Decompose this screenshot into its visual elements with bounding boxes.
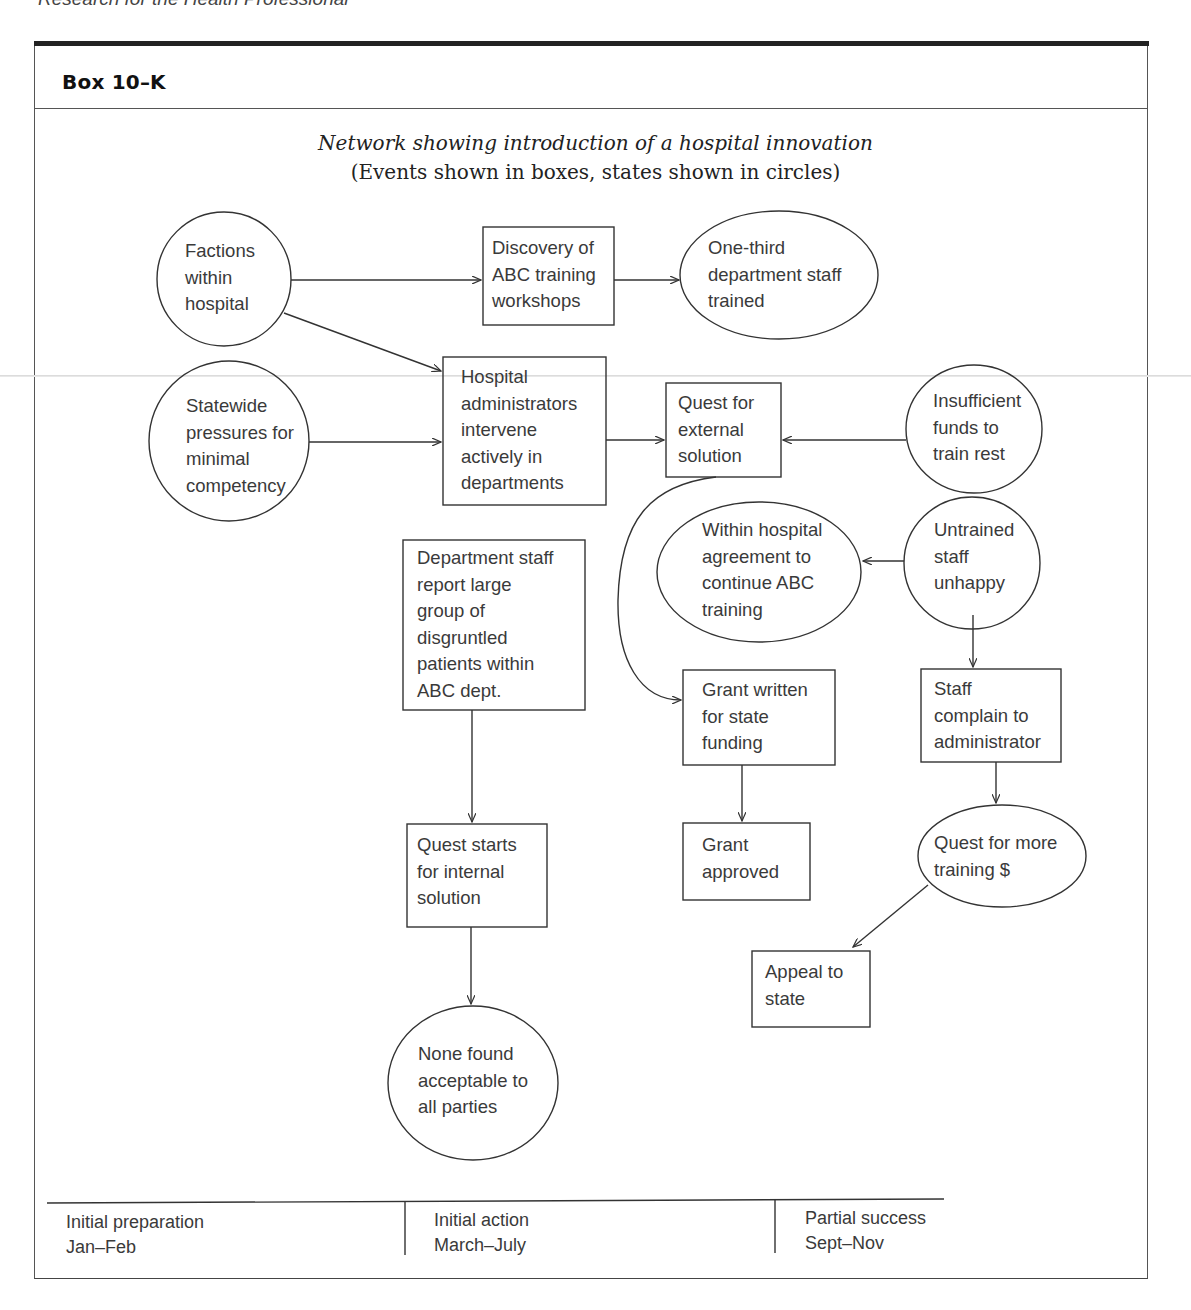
node-line: unhappy xyxy=(934,570,1014,597)
node-line: Discovery of xyxy=(492,235,596,262)
node-line: train rest xyxy=(933,441,1021,468)
node-line: Statewide xyxy=(186,393,294,420)
node-line: Quest for xyxy=(678,390,754,417)
node-line: solution xyxy=(417,885,517,912)
node-line: departments xyxy=(461,470,577,497)
node-appeal: Appeal to state xyxy=(765,959,843,1012)
node-grant-written: Grant written for state funding xyxy=(702,677,808,757)
node-grant-approved: Grant approved xyxy=(702,832,779,885)
node-line: pressures for xyxy=(186,420,294,447)
node-line: training $ xyxy=(934,857,1057,884)
node-line: disgruntled xyxy=(417,625,553,652)
node-line: Staff xyxy=(934,676,1041,703)
timeline-phase-3: Partial success Sept–Nov xyxy=(805,1206,926,1256)
node-line: trained xyxy=(708,288,841,315)
node-line: for internal xyxy=(417,859,517,886)
node-none-found: None found acceptable to all parties xyxy=(418,1041,528,1121)
node-line: Factions xyxy=(185,238,255,265)
node-one-third: One-third department staff trained xyxy=(708,235,841,315)
node-line: Hospital xyxy=(461,364,577,391)
node-line: Insufficient xyxy=(933,388,1021,415)
node-line: agreement to xyxy=(702,544,822,571)
node-line: administrator xyxy=(934,729,1041,756)
node-untrained: Untrained staff unhappy xyxy=(934,517,1014,597)
timeline-rule xyxy=(47,1199,944,1203)
edge-factions-hospital-admin xyxy=(284,313,441,371)
node-quest-internal: Quest starts for internal solution xyxy=(417,832,517,912)
node-factions: Factions within hospital xyxy=(185,238,255,318)
node-line: group of xyxy=(417,598,553,625)
node-line: Grant xyxy=(702,832,779,859)
node-line: ABC training xyxy=(492,262,596,289)
node-quest-external: Quest for external solution xyxy=(678,390,754,470)
node-line: training xyxy=(702,597,822,624)
timeline-phase-1: Initial preparation Jan–Feb xyxy=(66,1210,204,1260)
node-line: complain to xyxy=(934,703,1041,730)
node-line: all parties xyxy=(418,1094,528,1121)
node-quest-more: Quest for more training $ xyxy=(934,830,1057,883)
edge-quest-more-appeal xyxy=(853,885,928,947)
timeline-period-label: Jan–Feb xyxy=(66,1235,204,1260)
node-line: workshops xyxy=(492,288,596,315)
node-line: patients within xyxy=(417,651,553,678)
node-line: funding xyxy=(702,730,808,757)
node-line: Appeal to xyxy=(765,959,843,986)
node-line: Within hospital xyxy=(702,517,822,544)
timeline-phase-label: Partial success xyxy=(805,1206,926,1231)
node-line: None found xyxy=(418,1041,528,1068)
node-line: administrators xyxy=(461,391,577,418)
node-within-agreement: Within hospital agreement to continue AB… xyxy=(702,517,822,623)
node-line: intervene xyxy=(461,417,577,444)
node-line: department staff xyxy=(708,262,841,289)
node-line: Untrained xyxy=(934,517,1014,544)
node-line: within xyxy=(185,265,255,292)
node-line: report large xyxy=(417,572,553,599)
node-dept-staff: Department staff report large group of d… xyxy=(417,545,553,704)
network-diagram xyxy=(0,0,1191,1310)
node-line: ABC dept. xyxy=(417,678,553,705)
node-line: continue ABC xyxy=(702,570,822,597)
node-line: for state xyxy=(702,704,808,731)
node-line: One-third xyxy=(708,235,841,262)
node-line: external xyxy=(678,417,754,444)
node-statewide: Statewide pressures for minimal competen… xyxy=(186,393,294,499)
node-line: Grant written xyxy=(702,677,808,704)
node-line: Quest for more xyxy=(934,830,1057,857)
node-line: competency xyxy=(186,473,294,500)
node-line: solution xyxy=(678,443,754,470)
node-line: acceptable to xyxy=(418,1068,528,1095)
node-line: minimal xyxy=(186,446,294,473)
timeline-period-label: Sept–Nov xyxy=(805,1231,926,1256)
timeline-phase-2: Initial action March–July xyxy=(434,1208,529,1258)
timeline-phase-label: Initial preparation xyxy=(66,1210,204,1235)
node-line: Quest starts xyxy=(417,832,517,859)
node-line: staff xyxy=(934,544,1014,571)
node-line: state xyxy=(765,986,843,1013)
node-line: hospital xyxy=(185,291,255,318)
node-insufficient: Insufficient funds to train rest xyxy=(933,388,1021,468)
node-hospital-admin: Hospital administrators intervene active… xyxy=(461,364,577,497)
node-discovery: Discovery of ABC training workshops xyxy=(492,235,596,315)
node-line: actively in xyxy=(461,444,577,471)
node-line: Department staff xyxy=(417,545,553,572)
node-line: approved xyxy=(702,859,779,886)
timeline-phase-label: Initial action xyxy=(434,1208,529,1233)
timeline-period-label: March–July xyxy=(434,1233,529,1258)
node-line: funds to xyxy=(933,415,1021,442)
node-staff-complain: Staff complain to administrator xyxy=(934,676,1041,756)
